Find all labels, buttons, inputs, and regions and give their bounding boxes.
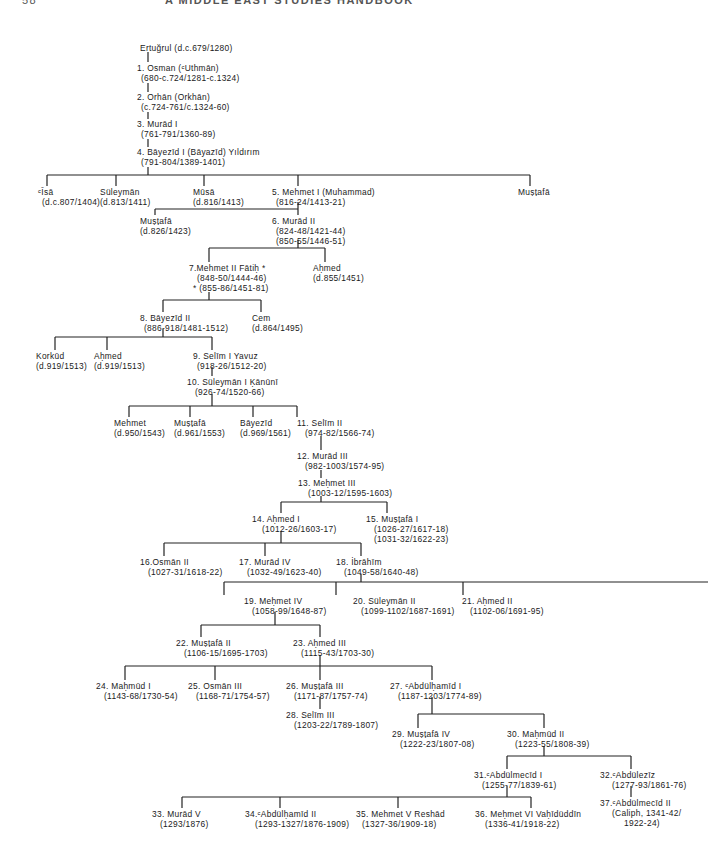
node-name: 14. Aḥmed I xyxy=(252,514,336,524)
node-name: 8. Bāyezīd II xyxy=(140,313,228,323)
node-20-suleyman-ii: 20. Süleymān II (1099-1102/1687-1691) xyxy=(353,596,455,616)
node-dates: (974-82/1566-74) xyxy=(297,428,375,438)
node-dates: (850-55/1446-51) xyxy=(272,236,346,246)
node-dates: (791-804/1389-1401) xyxy=(137,157,260,167)
node-name: Mūsā xyxy=(193,187,244,197)
node-30-mahmud-ii: 30. Maḥmūd II (1223-55/1808-39) xyxy=(507,729,589,749)
node-name: 32.ᶜAbdülezīz xyxy=(600,770,686,780)
node-dates: (1106-15/1695-1703) xyxy=(176,648,268,658)
node-36-mehmet-vi: 36. Meḥmet VI Vaḥīdüddīn (1336-41/1918-2… xyxy=(475,809,581,829)
node-name: 26. Muṣṭafā III xyxy=(286,681,368,691)
node-6-murad-ii: 6. Murād II (824-48/1421-44) (850-55/144… xyxy=(272,216,346,246)
node-26-mustafa-iii: 26. Muṣṭafā III (1171-87/1757-74) xyxy=(286,681,368,701)
node-dates: (d.969/1561) xyxy=(240,428,291,438)
node-dates: (d.864/1495) xyxy=(252,323,303,333)
node-19-mehmet-iv: 19. Meḥmet IV (1058-99/1648-87) xyxy=(244,596,326,616)
node-34-abdulhamid-ii: 34.ᶜAbdülḥamīd II (1293-1327/1876-1909) xyxy=(245,809,349,829)
node-bayezid-d969: Bāyezīd (d.969/1561) xyxy=(240,418,291,438)
node-dates: (1222-23/1807-08) xyxy=(392,739,474,749)
node-dates: (816-24/1413-21) xyxy=(272,197,375,207)
node-name: Mehmet xyxy=(114,418,165,428)
node-dates: (1102-06/1691-95) xyxy=(462,606,544,616)
node-ahmed-d919: Aḥmed (d.919/1513) xyxy=(94,351,145,371)
node-dates: (1327-36/1909-18) xyxy=(356,819,445,829)
node-7-mehmet-ii: 7.Mehmet II Fātiḥ * (848-50/1444-46) * (… xyxy=(189,263,269,293)
node-name: 37.ᶜAbdülmecīd II xyxy=(600,798,681,808)
node-name: 34.ᶜAbdülḥamīd II xyxy=(245,809,349,819)
node-name: 10. Süleymān I Ḳānūnī xyxy=(187,377,278,387)
node-name: 16.Osmān II xyxy=(140,557,222,567)
node-ahmed-d855: Aḥmed (d.855/1451) xyxy=(313,263,364,283)
node-dates: (1049-58/1640-48) xyxy=(336,567,418,577)
node-dates: (1027-31/1618-22) xyxy=(140,567,222,577)
node-name: Aḥmed xyxy=(94,351,145,361)
node-dates: (824-48/1421-44) xyxy=(272,226,346,236)
node-dates: (1143-68/1730-54) xyxy=(96,691,178,701)
node-5-mehmet-i: 5. Mehmet I (Muhammad) (816-24/1413-21) xyxy=(272,187,375,207)
node-25-osman-iii: 25. Osmān III (1168-71/1754-57) xyxy=(188,681,270,701)
node-dates: (d.855/1451) xyxy=(313,273,364,283)
node-dates: * (855-86/1451-81) xyxy=(189,283,269,293)
node-dates: (982-1003/1574-95) xyxy=(297,461,384,471)
node-dates: (d.961/1553) xyxy=(174,428,225,438)
node-22-mustafa-ii: 22. Muṣṭafā II (1106-15/1695-1703) xyxy=(176,638,268,658)
node-name: Muṣṭafā xyxy=(518,187,550,197)
node-dates: (1168-71/1754-57) xyxy=(188,691,270,701)
node-9-selim-i: 9. Selīm I Yavuz (918-26/1512-20) xyxy=(193,351,267,371)
node-31-abdulmecid-i: 31.ᶜAbdülmecīd I (1255-77/1839-61) xyxy=(474,770,556,790)
node-name: 9. Selīm I Yavuz xyxy=(193,351,267,361)
node-name: 33. Murād V xyxy=(152,809,208,819)
node-name: Ertuğrul (d.c.679/1280) xyxy=(140,43,233,53)
node-name: 29. Muṣṭafā IV xyxy=(392,729,474,739)
node-dates: (1293-1327/1876-1909) xyxy=(245,819,349,829)
node-dates: (1336-41/1918-22) xyxy=(475,819,581,829)
node-isa: ᶜĪsā (d.c.807/1404) xyxy=(38,187,100,207)
node-mehmet-d950: Mehmet (d.950/1543) xyxy=(114,418,165,438)
node-name: 21. Aḥmed II xyxy=(462,596,544,606)
node-33-murad-v: 33. Murād V (1293/1876) xyxy=(152,809,208,829)
node-name: 17. Murād IV xyxy=(239,557,321,567)
node-dates: (1223-55/1808-39) xyxy=(507,739,589,749)
node-dates: (848-50/1444-46) xyxy=(189,273,269,283)
node-17-murad-iv: 17. Murād IV (1032-49/1623-40) xyxy=(239,557,321,577)
node-12-murad-iii: 12. Murād III (982-1003/1574-95) xyxy=(297,451,384,471)
node-dates: (1187-1203/1774-89) xyxy=(390,691,482,701)
node-24-mahmud-i: 24. Maḥmūd I (1143-68/1730-54) xyxy=(96,681,178,701)
node-mustafa-d961: Muṣṭafā (d.961/1553) xyxy=(174,418,225,438)
node-dates: (d.813/1411) xyxy=(100,197,150,207)
node-dates: (d.826/1423) xyxy=(140,226,191,236)
node-name: 3. Murād I xyxy=(137,119,215,129)
node-name: 11. Selīm II xyxy=(297,418,375,428)
node-name: 35. Mehmet V Reshād xyxy=(356,809,445,819)
node-8-bayezid-ii: 8. Bāyezīd II (886-918/1481-1512) xyxy=(140,313,228,333)
node-name: 5. Mehmet I (Muhammad) xyxy=(272,187,375,197)
node-27-abdulhamid-i: 27. ᶜAbdülḥamīd I (1187-1203/1774-89) xyxy=(390,681,482,701)
node-name: 1. Osman (ᶜUthmān) xyxy=(137,63,240,73)
node-name: 7.Mehmet II Fātiḥ * xyxy=(189,263,269,273)
node-dates: (680-c.724/1281-c.1324) xyxy=(137,73,240,83)
node-2-orhan: 2. Orhān (Orkhān) (c.724-761/c.1324-60) xyxy=(137,92,230,112)
node-15-mustafa-i: 15. Muṣṭafā I (1026-27/1617-18) (1031-32… xyxy=(366,514,448,544)
node-14-ahmed-i: 14. Aḥmed I (1012-26/1603-17) xyxy=(252,514,336,534)
node-dates: (1277-93/1861-76) xyxy=(600,780,686,790)
node-name: 23. Aḥmed III xyxy=(293,638,374,648)
node-dates: (1203-22/1789-1807) xyxy=(286,720,378,730)
node-dates: (d.816/1413) xyxy=(193,197,244,207)
node-name: Muṣṭafā xyxy=(174,418,225,428)
node-name: 4. Bāyezīd I (Bāyazīd) Yıldırım xyxy=(137,147,260,157)
node-name: Süleymān xyxy=(100,187,150,197)
node-name: 2. Orhān (Orkhān) xyxy=(137,92,230,102)
node-name: Korkūd xyxy=(36,351,87,361)
node-dates: 1922-24) xyxy=(600,818,681,828)
node-name: 30. Maḥmūd II xyxy=(507,729,589,739)
node-name: 20. Süleymān II xyxy=(353,596,455,606)
node-dates: (d.c.807/1404) xyxy=(38,197,100,207)
node-28-selim-iii: 28. Selīm III (1203-22/1789-1807) xyxy=(286,710,378,730)
node-name: 25. Osmān III xyxy=(188,681,270,691)
node-ertugrul: Ertuğrul (d.c.679/1280) xyxy=(140,43,233,53)
node-name: 27. ᶜAbdülḥamīd I xyxy=(390,681,482,691)
node-10-suleyman-i: 10. Süleymān I Ḳānūnī (926-74/1520-66) xyxy=(187,377,278,397)
node-dates: (1293/1876) xyxy=(152,819,208,829)
node-name: 13. Meḥmet III xyxy=(298,478,392,488)
node-name: Muṣṭafā xyxy=(140,216,191,226)
